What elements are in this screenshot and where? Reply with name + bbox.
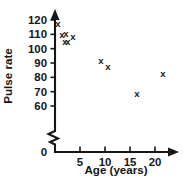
x-tick-label: 5: [77, 156, 84, 168]
y-axis-title: Pulse rate: [1, 48, 14, 104]
y-tick-label: 90: [34, 57, 47, 69]
data-point-marker: x: [134, 88, 140, 99]
data-point-marker: x: [105, 61, 111, 72]
data-point-marker: x: [70, 31, 76, 42]
data-point-marker: x: [160, 68, 166, 79]
chart-canvas: 12011010090807060 5101520 0 Age (years) …: [0, 0, 187, 181]
data-point-marker: x: [55, 18, 61, 29]
y-tick-label: 70: [34, 86, 47, 98]
data-point-marker: x: [98, 55, 104, 66]
x-tick-label: 20: [149, 156, 162, 168]
y-tick-label: 100: [28, 43, 47, 55]
y-tick-label: 110: [29, 28, 47, 40]
chart-background: [0, 0, 187, 181]
x-axis-title: Age (years): [84, 163, 147, 176]
scatter-plot-figure: 12011010090807060 5101520 0 Age (years) …: [0, 0, 187, 181]
y-tick-label: 120: [28, 14, 47, 26]
origin-tick-label: 0: [41, 146, 47, 158]
y-tick-label: 80: [34, 71, 47, 83]
y-tick-label: 60: [34, 100, 47, 112]
